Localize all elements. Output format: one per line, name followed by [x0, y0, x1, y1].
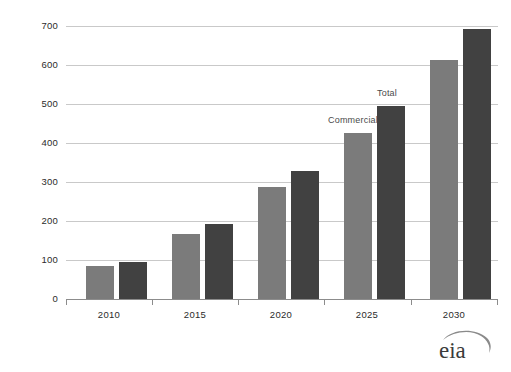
x-tick-2 [238, 299, 239, 305]
bar-2030-total[interactable] [463, 29, 491, 299]
bar-group-2020 [246, 26, 332, 299]
x-tick-end [497, 299, 498, 305]
bar-2015-total[interactable] [205, 224, 233, 299]
y-tick-label-400: 400 [14, 138, 58, 148]
y-tick-label-500: 500 [14, 99, 58, 109]
y-tick-label-300: 300 [14, 177, 58, 187]
x-tick-label-2020: 2020 [241, 309, 321, 320]
x-tick-start [66, 299, 67, 305]
y-tick-label-700: 700 [14, 21, 58, 31]
bar-group-2030 [418, 26, 504, 299]
bar-2015-commercial[interactable] [172, 234, 200, 299]
eia-logo-text: eia [439, 339, 466, 362]
x-tick-label-2010: 2010 [69, 309, 149, 320]
annotation-commercial: Commercial [328, 115, 378, 125]
x-tick-1 [152, 299, 153, 305]
x-tick-label-2015: 2015 [155, 309, 235, 320]
bar-2010-commercial[interactable] [86, 266, 114, 299]
bar-group-2025: Commercial Total [332, 26, 418, 299]
y-tick-label-200: 200 [14, 216, 58, 226]
annotation-total: Total [377, 88, 397, 98]
bar-group-2015 [160, 26, 246, 299]
x-tick-4 [411, 299, 412, 305]
y-tick-label-100: 100 [14, 255, 58, 265]
y-tick-label-0: 0 [14, 294, 58, 304]
x-tick-label-2030: 2030 [414, 309, 494, 320]
bar-2030-commercial[interactable] [430, 60, 458, 299]
bar-2025-commercial[interactable] [344, 133, 372, 299]
bar-chart-figure: 700 600 500 400 300 200 100 0 [0, 0, 511, 372]
bar-2010-total[interactable] [119, 262, 147, 299]
y-axis-labels: 700 600 500 400 300 200 100 0 [8, 0, 58, 372]
x-axis-line [66, 299, 498, 300]
bar-2025-total[interactable] [377, 106, 405, 299]
plot-area: Commercial Total [66, 26, 498, 299]
bar-2020-total[interactable] [291, 171, 319, 299]
x-tick-label-2025: 2025 [327, 309, 407, 320]
y-tick-label-600: 600 [14, 60, 58, 70]
eia-logo: eia [437, 326, 499, 364]
bar-group-2010 [74, 26, 160, 299]
bar-2020-commercial[interactable] [258, 187, 286, 299]
x-tick-3 [324, 299, 325, 305]
